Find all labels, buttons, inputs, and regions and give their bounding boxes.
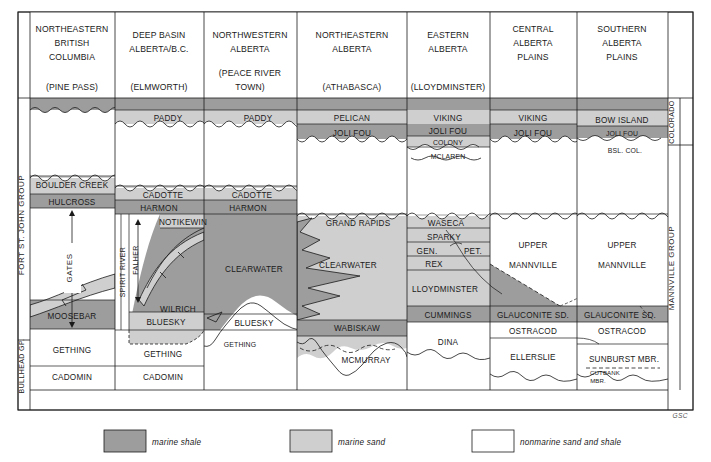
unit-cadotte-nw: CADOTTE <box>232 191 273 200</box>
unit-clearwater-nw: CLEARWATER <box>225 265 283 274</box>
gsc-credit: GSC <box>673 412 689 419</box>
unit-lloydminster: LLOYDMINSTER <box>412 285 478 294</box>
unit-cadomin-db: CADOMIN <box>143 373 183 382</box>
stratigraphic-correlation-chart: NORTHEASTERN BRITISH COLUMBIA (PINE PASS… <box>0 0 711 462</box>
unit-hulcross: HULCROSS <box>48 198 95 207</box>
unit-colony: COLONY <box>433 139 463 146</box>
unit-upper-s: UPPER <box>607 241 636 250</box>
unit-gen: GEN. <box>417 247 438 256</box>
legend-label-marine-sand: marine sand <box>338 438 386 447</box>
label-spirit-river: SPIRIT RIVER <box>119 247 126 298</box>
unit-waseca: WASECA <box>428 219 465 228</box>
header-line: SOUTHERN <box>597 24 646 34</box>
legend-swatch-marine-sand <box>290 430 332 452</box>
column-body-e-ab <box>407 98 497 362</box>
header-locality: (ATHABASCA) <box>323 82 382 92</box>
unit-gething-nebc: GETHING <box>53 346 92 355</box>
unit-glauconite-s: GLAUCONITE SD. <box>584 311 656 320</box>
unit-gething-nw: GETHING <box>224 341 256 348</box>
column-headers: NORTHEASTERN BRITISH COLUMBIA (PINE PASS… <box>30 12 668 98</box>
header-line: ALBERTA <box>428 44 468 54</box>
unit-joli-fou-s: JOLI FOU <box>606 130 638 137</box>
unit-ostracod-c: OSTRACOD <box>509 327 557 336</box>
header-line: PLAINS <box>606 52 638 62</box>
header-line: ALBERTA <box>602 38 642 48</box>
group-bullhead: BULLHEAD GP. <box>18 339 25 394</box>
header-locality: (PEACE RIVER <box>219 68 281 78</box>
unit-joli-fou-c: JOLI FOU <box>514 129 552 138</box>
group-fort-st-john: FORT ST. JOHN GROUP <box>17 175 26 275</box>
unit-wilrich: WILRICH <box>160 305 196 314</box>
header-line: ALBERTA <box>513 38 553 48</box>
legend: marine shale marine sand nonmarine sand … <box>104 430 622 452</box>
unit-gething-db: GETHING <box>144 350 183 359</box>
unit-sparky: SPARKY <box>427 233 461 242</box>
unit-wabiskaw: WABISKAW <box>334 324 380 333</box>
unit-bsl-col: BSL. COL. <box>608 147 642 154</box>
unit-rex: REX <box>425 260 443 269</box>
group-mannville: MANNVILLE GROUP <box>667 226 676 310</box>
header-line: ALBERTA <box>230 44 270 54</box>
unit-cummings: CUMMINGS <box>424 311 471 320</box>
unit-cadomin-nebc: CADOMIN <box>52 373 92 382</box>
unit-mclaren: MCLAREN <box>431 153 466 160</box>
unit-mcmurray: MCMURRAY <box>341 356 391 365</box>
legend-label-nonmarine: nonmarine sand and shale <box>520 438 622 447</box>
unit-boulder-creek: BOULDER CREEK <box>36 181 109 190</box>
unit-pet: PET. <box>464 247 482 256</box>
header-line: EASTERN <box>427 30 469 40</box>
unit-grand-rapids: GRAND RAPIDS <box>326 219 391 228</box>
header-line: NORTHEASTERN <box>316 30 389 40</box>
header-line: COLUMBIA <box>49 52 95 62</box>
header-line: ALBERTA/B.C. <box>129 44 188 54</box>
unit-bluesky-db: BLUESKY <box>146 318 186 327</box>
header-locality: TOWN) <box>235 82 265 92</box>
unit-ellerslie: ELLERSLIE <box>510 353 556 362</box>
unit-notikewin: NOTIKEWIN <box>159 218 207 227</box>
legend-label-marine-shale: marine shale <box>152 438 202 447</box>
unit-cutbank: CUTBANK <box>590 369 620 376</box>
unit-harmon-db: HARMON <box>140 204 178 213</box>
unit-viking-e: VIKING <box>434 114 463 123</box>
unit-joli-fou-e: JOLI FOU <box>429 127 467 136</box>
unit-cadotte-db: CADOTTE <box>143 191 184 200</box>
unit-cutbank-mbr: MBR. <box>590 377 606 384</box>
label-falher: FALHER <box>132 245 139 275</box>
unit-ostracod-s: OSTRACOD <box>598 327 646 336</box>
unit-viking-c: VIKING <box>519 114 548 123</box>
unit-pelican: PELICAN <box>334 114 370 123</box>
legend-swatch-marine-shale <box>104 430 146 452</box>
unit-mannville-s: MANNVILLE <box>598 261 647 270</box>
unit-joli-fou-ne: JOLI FOU <box>333 129 371 138</box>
e-mannville-sands <box>407 214 490 320</box>
unit-sunburst: SUNBURST MBR. <box>589 355 659 364</box>
unit-upper-c: UPPER <box>518 241 547 250</box>
header-line: BRITISH <box>55 38 90 48</box>
header-line: PLAINS <box>517 52 549 62</box>
label-gates: GATES <box>65 253 74 282</box>
unit-bluesky-nw: BLUESKY <box>234 319 274 328</box>
unit-paddy-nw: PADDY <box>244 114 273 123</box>
header-locality: (LLOYDMINSTER) <box>411 82 486 92</box>
unit-paddy-db: PADDY <box>154 114 183 123</box>
unit-glauconite-c: GLAUCONITE SD. <box>497 311 569 320</box>
unit-clearwater-ne: CLEARWATER <box>319 261 377 270</box>
unit-mannville-c: MANNVILLE <box>509 261 558 270</box>
legend-swatch-nonmarine <box>472 430 514 452</box>
header-line: ALBERTA <box>332 44 372 54</box>
header-line: NORTHWESTERN <box>212 30 287 40</box>
header-line: NORTHEASTERN <box>36 24 109 34</box>
column-header-c-ab: CENTRAL ALBERTA PLAINS <box>512 24 553 62</box>
header-line: CENTRAL <box>512 24 553 34</box>
unit-harmon-nw: HARMON <box>229 204 267 213</box>
unit-dina: DINA <box>438 338 459 347</box>
header-line: DEEP BASIN <box>133 30 186 40</box>
unit-bow-island: BOW ISLAND <box>595 116 648 125</box>
header-locality: (ELMWORTH) <box>130 82 187 92</box>
group-colorado: COLORADO <box>668 100 675 143</box>
header-locality: (PINE PASS) <box>46 82 98 92</box>
